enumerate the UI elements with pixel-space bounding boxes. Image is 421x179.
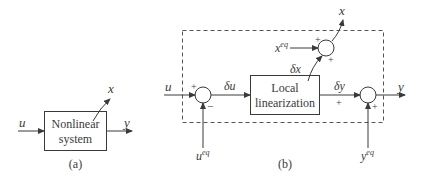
delta-y-label: δy xyxy=(334,79,346,93)
yeq-label: yeq xyxy=(360,148,374,163)
state-label-x: x xyxy=(107,81,114,96)
sum2-sign-bottom: + xyxy=(328,54,334,65)
panel-b: u + − ueq δu Local linearization δy + + … xyxy=(164,3,405,171)
block-label-line1: Local xyxy=(271,81,299,95)
sum1-sign-left: + xyxy=(191,81,197,92)
block-label-line2: linearization xyxy=(255,96,315,110)
block-diagram: u Nonlinear system y x (a) u + − ueq δu … xyxy=(0,0,421,179)
state-out-label-x: x xyxy=(338,3,345,18)
delta-u-label: δu xyxy=(224,79,236,93)
output-label-y: y xyxy=(122,115,130,130)
input-label-u: u xyxy=(19,115,26,130)
sum3-sign-left: + xyxy=(336,97,342,108)
xeq-label: xeq xyxy=(274,40,288,55)
panel-a: u Nonlinear system y x (a) xyxy=(18,81,132,171)
block-label-line1: Nonlinear xyxy=(52,117,100,131)
caption-a: (a) xyxy=(69,157,82,171)
sum2-sign-left: + xyxy=(315,34,321,45)
output-label-y: y xyxy=(396,79,404,94)
sum1-sign-bottom: − xyxy=(207,100,213,112)
delta-x-label: δx xyxy=(290,62,302,76)
ueq-label: ueq xyxy=(196,148,210,163)
caption-b: (b) xyxy=(278,157,292,171)
sum3-sign-bottom: + xyxy=(372,101,378,112)
input-label-u: u xyxy=(165,79,172,94)
block-label-line2: system xyxy=(59,132,93,146)
